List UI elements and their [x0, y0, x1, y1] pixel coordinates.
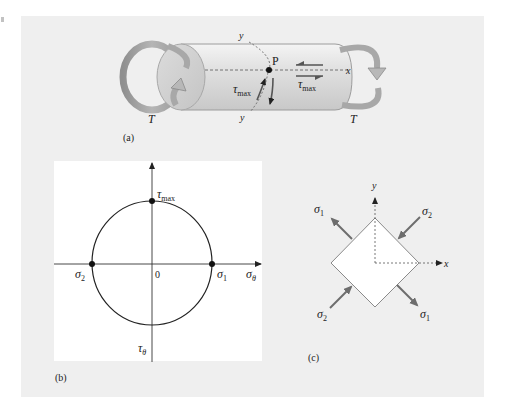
torque-right-label: T — [350, 112, 358, 126]
element-y-label: y — [371, 180, 377, 191]
sigma2-bottom-label: σ2 — [317, 307, 327, 323]
sigma2-point — [89, 261, 95, 267]
panel-c-caption: (c) — [308, 352, 319, 364]
sigma1-tension-arrow-top — [332, 219, 352, 239]
y-top-label: y — [238, 30, 244, 41]
sigma1-tension-arrow-bottom — [397, 285, 417, 305]
element-x-label: x — [443, 258, 449, 269]
torque-left-label: T — [148, 112, 156, 126]
sigma2-top-label: σ2 — [422, 204, 432, 220]
sigma2-compression-arrow-bottom — [330, 287, 351, 308]
x-axis-label: x — [345, 65, 351, 76]
sigma1-point — [209, 261, 215, 267]
origin-label: 0 — [155, 269, 160, 280]
point-p-label: P — [272, 54, 279, 68]
sigma2-compression-arrow-top — [399, 217, 420, 238]
figure-svg: P x y y T T τmax τmax (a) 0 σ2 σ1 σθ τma… — [0, 0, 506, 415]
panel-a-caption: (a) — [123, 132, 134, 144]
panel-a-shaft — [123, 42, 386, 112]
y-bottom-label: y — [239, 112, 245, 123]
sigma1-bottom-label: σ1 — [420, 307, 430, 323]
sigma1-top-label: σ1 — [314, 202, 324, 218]
tau-max-point — [149, 198, 155, 204]
panel-b-caption: (b) — [55, 372, 67, 384]
